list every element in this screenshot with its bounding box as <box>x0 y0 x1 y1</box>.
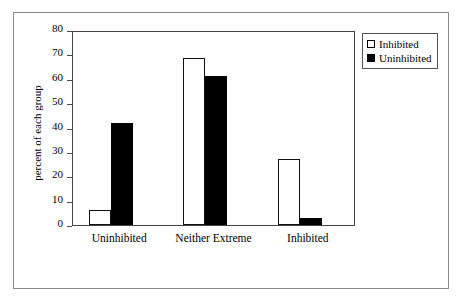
y-axis-tick-label: 20 <box>52 169 63 180</box>
y-axis-tick-label: 50 <box>52 96 63 107</box>
y-axis-tick-label: 0 <box>58 218 64 229</box>
bar-neither-extreme-uninhibited <box>205 76 227 225</box>
legend-entry-uninhibited[interactable]: Uninhibited <box>367 51 432 65</box>
bar-inhibited-inhibited <box>278 159 300 225</box>
y-axis-tick-label: 80 <box>52 23 63 34</box>
bar-group <box>167 32 261 225</box>
chart-legend: InhibitedUninhibited <box>362 33 438 69</box>
y-axis-tick-mark <box>67 226 72 227</box>
y-axis-tick-label: 10 <box>52 194 63 205</box>
legend-label: Inhibited <box>379 37 419 51</box>
y-axis: 01020304050607080 <box>0 31 72 226</box>
y-axis-tick-label: 60 <box>52 72 63 83</box>
x-axis-tick-label: Uninhibited <box>72 231 166 245</box>
bar-uninhibited-uninhibited <box>111 123 133 225</box>
plot-area <box>72 31 355 226</box>
bar-inhibited-uninhibited <box>300 218 322 225</box>
bar-neither-extreme-inhibited <box>183 58 205 225</box>
legend-entry-inhibited[interactable]: Inhibited <box>367 37 432 51</box>
x-axis-tick-label: Inhibited <box>261 231 355 245</box>
legend-swatch-icon <box>367 40 375 48</box>
y-axis-tick-label: 70 <box>52 47 63 58</box>
bar-group <box>262 32 356 225</box>
x-axis-tick-label: Neither Extreme <box>166 231 260 245</box>
legend-swatch-icon <box>367 54 375 62</box>
x-axis: UninhibitedNeither ExtremeInhibited <box>72 231 355 249</box>
bar-group <box>73 32 167 225</box>
y-axis-tick-label: 40 <box>52 121 63 132</box>
bars-layer <box>73 32 354 225</box>
legend-label: Uninhibited <box>379 51 432 65</box>
chart-figure: percent of each group 01020304050607080 … <box>0 0 463 303</box>
y-axis-tick-label: 30 <box>52 145 63 156</box>
bar-uninhibited-inhibited <box>89 210 111 225</box>
